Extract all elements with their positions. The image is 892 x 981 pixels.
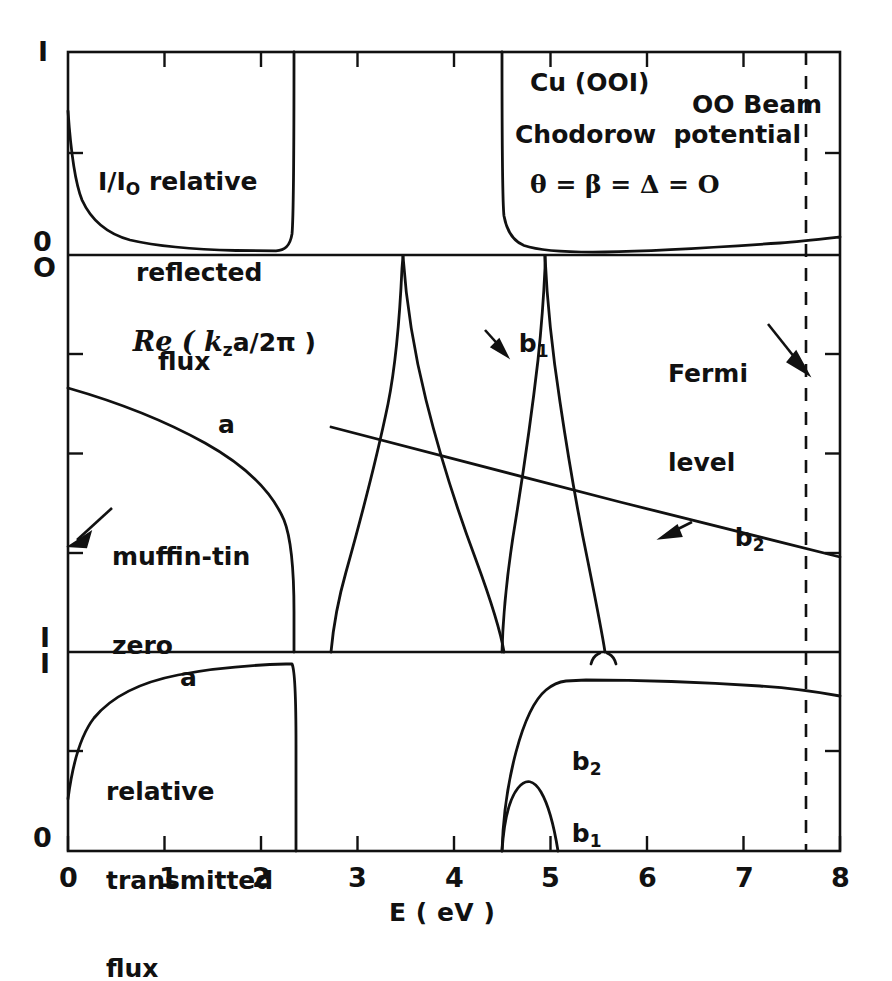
real-k-label-subscript: z: [223, 340, 233, 360]
curve-b1-tail-bottom: [591, 653, 600, 664]
muffin-tin-arrow-line: [77, 508, 112, 540]
curve-label-b2-mid: b2: [700, 494, 765, 584]
curve-label-b1-mid: b1: [484, 300, 549, 390]
curve-b1-left: [331, 256, 403, 652]
fermi-level-line1: Fermi: [668, 359, 748, 389]
reflected-flux-label-line3: reflected: [98, 258, 262, 288]
xtick-3: 3: [348, 862, 367, 893]
x-axis-ticks-top: [165, 52, 744, 67]
xtick-8: 8: [831, 862, 850, 893]
curve-label-b1-bottom-sub: 1: [590, 831, 602, 851]
real-k-label: Re ( kza/2π ): [98, 296, 316, 389]
potential-label: Chodorow potential: [515, 120, 801, 150]
xtick-6: 6: [638, 862, 657, 893]
real-k-label-tail: a/2π ): [233, 328, 316, 357]
reflected-flux-label-subscript: O: [126, 179, 140, 199]
material-label: Cu (OOI): [530, 68, 650, 98]
curve-label-b1-bottom-base: b: [572, 819, 590, 848]
ytick-bottom-panel-max: I: [40, 648, 50, 679]
angles-label: θ = β = Δ = O: [530, 170, 720, 200]
curve-label-b1-mid-base: b: [519, 329, 537, 358]
transmitted-flux-label-line1: relative: [106, 777, 273, 807]
reflected-flux-label-ratio: I/I: [98, 167, 126, 196]
curve-label-b1-mid-sub: 1: [537, 341, 549, 361]
curve-b2-lower: [545, 256, 605, 652]
fermi-arrowhead: [788, 352, 808, 374]
beam-label: OO Beam: [692, 90, 822, 120]
xtick-7: 7: [735, 862, 754, 893]
transmitted-flux-label: relative transmitted flux: [106, 718, 273, 981]
transmitted-flux-label-line2: transmitted: [106, 866, 273, 896]
real-k-label-head: Re ( k: [133, 326, 223, 357]
transmitted-flux-label-line3: flux: [106, 954, 273, 981]
muffin-tin-zero-line1: muffin-tin: [112, 542, 250, 572]
fermi-level-line2: level: [668, 448, 748, 478]
ytick-middle-panel-max: O: [33, 252, 56, 283]
curve-label-b2-mid-sub: 2: [753, 535, 765, 555]
xtick-4: 4: [445, 862, 464, 893]
ytick-top-panel-max: I: [38, 36, 48, 67]
ytick-bottom-panel-min: 0: [33, 822, 52, 853]
reflected-flux-label-line2: relative: [149, 167, 258, 196]
muffin-tin-zero-line2: zero: [112, 631, 250, 661]
curve-label-a-mid: a: [218, 410, 235, 439]
curve-label-b2-bottom-sub: 2: [590, 759, 602, 779]
curve-label-b2-mid-base: b: [735, 523, 753, 552]
curve-label-a-bottom: a: [180, 663, 197, 692]
muffin-tin-arrowhead: [70, 533, 90, 547]
curve-label-b2-bottom: b2: [537, 718, 602, 808]
x-axis-label: E ( eV ): [389, 898, 495, 927]
curve-label-b2-bottom-base: b: [572, 747, 590, 776]
curve-b1-tail-bottom-2: [607, 653, 616, 664]
xtick-0: 0: [59, 862, 78, 893]
